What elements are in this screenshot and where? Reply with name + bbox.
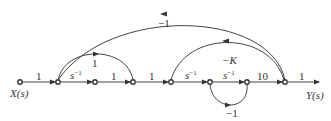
feedback-gain-label: −1	[226, 108, 238, 119]
feedback-gain-label: −K	[222, 55, 237, 66]
input-label: X(s)	[10, 88, 28, 99]
gain-label: 1	[111, 71, 117, 82]
node-input	[18, 80, 22, 84]
gain-label: 1	[299, 71, 305, 82]
gain-label: s−1	[70, 70, 82, 81]
output-label: Y(s)	[306, 90, 324, 101]
feedforward-gain-label: 1	[92, 58, 98, 69]
gain-label: s−1	[223, 70, 235, 81]
gain-label: 1	[149, 71, 155, 82]
feedback-gain-label: −1	[158, 18, 170, 29]
signal-flow-graph: X(s) Y(s) 1 s−1 1 1 s−1 s−1 10 1 1 −1 −K…	[0, 0, 331, 121]
gain-label: s−1	[185, 70, 197, 81]
gain-label: 1	[36, 71, 42, 82]
gain-label: 10	[257, 71, 268, 82]
